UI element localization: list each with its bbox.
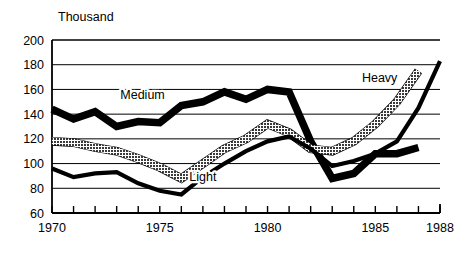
- chart-background: [0, 0, 466, 257]
- x-tick-label: 1975: [146, 221, 174, 235]
- unit-title: Thousand: [58, 10, 114, 24]
- series-label: Medium: [120, 88, 164, 102]
- series-label: Light: [189, 170, 217, 184]
- y-tick-label: 200: [23, 34, 44, 48]
- y-tick-label: 140: [23, 108, 44, 122]
- y-tick-label: 160: [23, 83, 44, 97]
- series-label: Heavy: [362, 71, 398, 85]
- x-tick-label: 1988: [426, 221, 454, 235]
- x-tick-label: 1980: [254, 221, 282, 235]
- y-tick-label: 60: [30, 207, 44, 221]
- y-tick-label: 120: [23, 132, 44, 146]
- chart-canvas: 6080100120140160180200 19701975198019851…: [0, 0, 466, 257]
- x-tick-label: 1985: [361, 221, 389, 235]
- y-tick-label: 100: [23, 157, 44, 171]
- y-tick-label: 180: [23, 58, 44, 72]
- line-chart: 6080100120140160180200 19701975198019851…: [0, 0, 466, 257]
- y-tick-label: 80: [30, 182, 44, 196]
- x-tick-label: 1970: [38, 221, 66, 235]
